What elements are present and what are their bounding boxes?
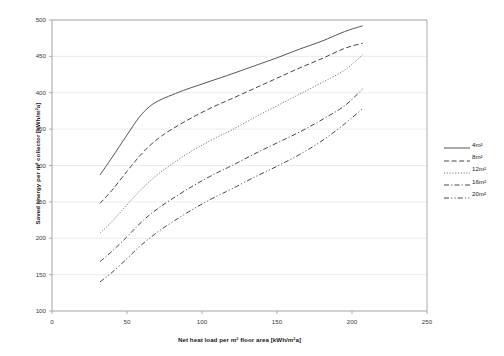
legend-line-swatch [444, 189, 470, 199]
legend-item[interactable]: 20m² [444, 188, 500, 200]
chart-legend: 4m²8m²12m²16m²20m² [444, 138, 500, 202]
legend-item[interactable]: 8m² [444, 150, 500, 162]
x-tick-label: 200 [337, 318, 367, 325]
legend-item[interactable]: 12m² [444, 163, 500, 175]
series-line-20m2 [100, 109, 363, 282]
series-line-12m2 [100, 55, 363, 233]
x-axis-title: Net heat load per m² floor area [kWh/m²a… [52, 336, 427, 343]
y-tick-label: 450 [14, 52, 46, 59]
y-tick-label: 150 [14, 271, 46, 278]
x-tick-label: 0 [37, 318, 67, 325]
y-tick-label: 400 [14, 89, 46, 96]
x-tick-label: 100 [187, 318, 217, 325]
chart-figure: Saved energy per m² collector [kWh/m²a] … [0, 0, 504, 356]
legend-label: 8m² [470, 153, 483, 160]
x-tick-label: 50 [112, 318, 142, 325]
legend-label: 4m² [470, 141, 483, 148]
legend-item[interactable]: 16m² [444, 175, 500, 187]
legend-label: 12m² [470, 165, 486, 172]
y-tick-label: 500 [14, 16, 46, 23]
series-line-16m2 [100, 89, 363, 261]
legend-label: 16m² [470, 178, 486, 185]
y-tick-label: 250 [14, 198, 46, 205]
y-tick-label: 350 [14, 125, 46, 132]
legend-line-swatch [444, 176, 470, 186]
legend-line-swatch [444, 139, 470, 149]
legend-line-swatch [444, 164, 470, 174]
series-line-8m2 [100, 43, 363, 203]
line-chart-plot [0, 0, 504, 356]
legend-line-swatch [444, 152, 470, 162]
legend-item[interactable]: 4m² [444, 138, 500, 150]
x-tick-label: 150 [262, 318, 292, 325]
x-tick-label: 250 [412, 318, 442, 325]
series-line-4m2 [100, 26, 363, 175]
legend-label: 20m² [470, 190, 486, 197]
y-tick-label: 200 [14, 234, 46, 241]
y-tick-label: 300 [14, 162, 46, 169]
y-tick-label: 100 [14, 307, 46, 314]
